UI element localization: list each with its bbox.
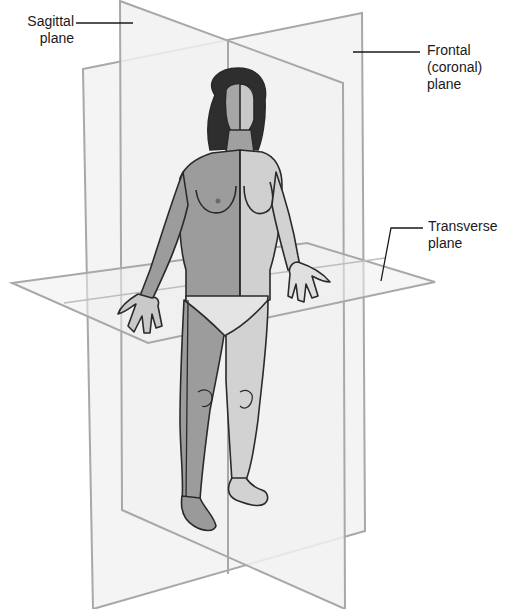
anatomical-planes-diagram: Sagittal plane Frontal (coronal) plane T… [0,0,523,609]
frontal-plane-label: Frontal (coronal) plane [427,42,482,93]
sagittal-plane-label: Sagittal plane [14,13,74,47]
transverse-plane-label: Transverse plane [428,218,498,252]
